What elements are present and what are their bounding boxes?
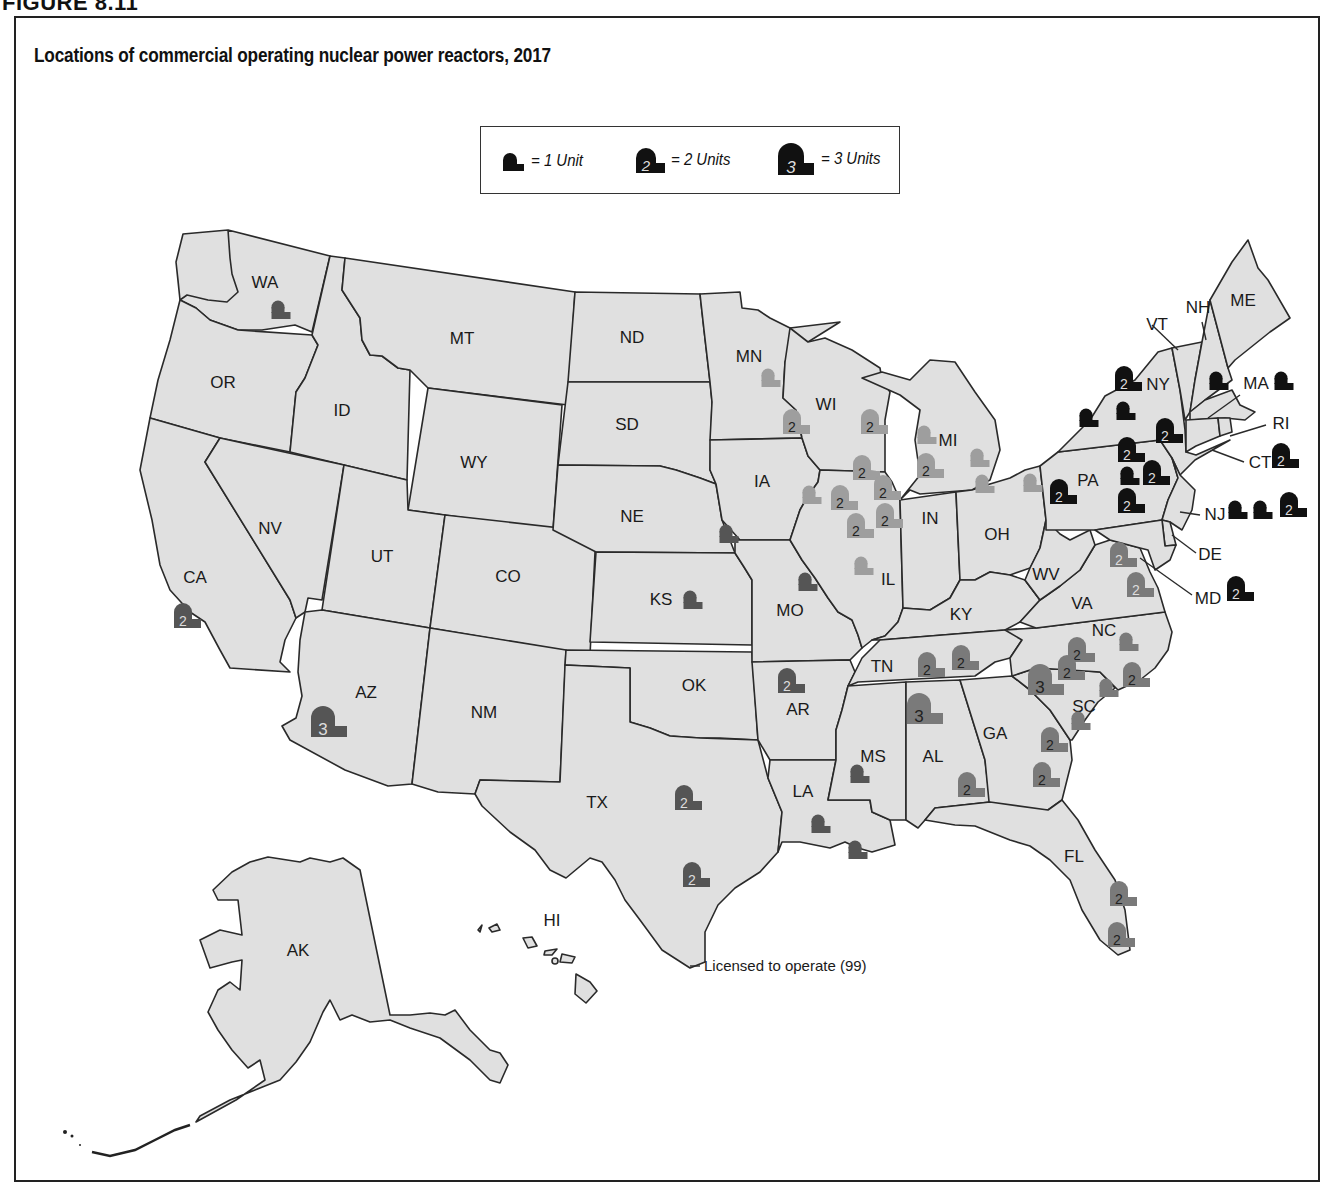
licensed-note: Licensed to operate (99) xyxy=(704,957,867,974)
svg-text:2: 2 xyxy=(852,523,860,539)
svg-text:2: 2 xyxy=(1113,932,1121,948)
svg-text:NH: NH xyxy=(1186,298,1211,317)
svg-text:2: 2 xyxy=(1161,428,1169,444)
svg-text:3: 3 xyxy=(914,707,923,726)
svg-text:2: 2 xyxy=(1132,582,1140,598)
svg-text:OR: OR xyxy=(210,373,236,392)
svg-text:2: 2 xyxy=(1148,470,1156,486)
svg-text:3: 3 xyxy=(1035,678,1044,697)
svg-text:ND: ND xyxy=(620,328,645,347)
svg-text:2: 2 xyxy=(1232,586,1240,602)
svg-text:2: 2 xyxy=(1115,891,1123,907)
svg-text:TX: TX xyxy=(586,793,608,812)
reactor-icon xyxy=(1254,501,1273,520)
svg-text:MS: MS xyxy=(860,747,886,766)
svg-text:AL: AL xyxy=(923,747,944,766)
reactor-icon: 2 xyxy=(1227,576,1254,602)
svg-text:2: 2 xyxy=(879,485,887,501)
svg-text:TN: TN xyxy=(871,657,894,676)
svg-text:NM: NM xyxy=(471,703,497,722)
svg-text:CO: CO xyxy=(495,567,521,586)
svg-text:2: 2 xyxy=(866,419,874,435)
reactor-icon: 2 xyxy=(1110,881,1137,907)
svg-text:2: 2 xyxy=(179,613,187,629)
svg-text:MT: MT xyxy=(450,329,475,348)
svg-text:NJ: NJ xyxy=(1205,505,1226,524)
svg-text:2: 2 xyxy=(957,655,965,671)
svg-text:ME: ME xyxy=(1230,291,1256,310)
svg-text:SD: SD xyxy=(615,415,639,434)
svg-text:NV: NV xyxy=(258,519,282,538)
svg-text:IL: IL xyxy=(881,570,895,589)
svg-text:NE: NE xyxy=(620,507,644,526)
svg-text:2: 2 xyxy=(688,872,696,888)
reactor-icon: 2 xyxy=(1108,922,1135,948)
lower48-states xyxy=(140,230,1290,968)
svg-text:NC: NC xyxy=(1092,621,1117,640)
svg-text:2: 2 xyxy=(1128,672,1136,688)
svg-text:NY: NY xyxy=(1146,375,1170,394)
svg-text:WY: WY xyxy=(460,453,487,472)
svg-text:UT: UT xyxy=(371,547,394,566)
svg-text:DE: DE xyxy=(1198,545,1222,564)
svg-text:PA: PA xyxy=(1077,471,1099,490)
svg-text:OH: OH xyxy=(984,525,1010,544)
svg-text:2: 2 xyxy=(923,662,931,678)
svg-text:OK: OK xyxy=(682,676,707,695)
svg-text:2: 2 xyxy=(1063,665,1071,681)
svg-text:IA: IA xyxy=(754,472,771,491)
svg-text:2: 2 xyxy=(1055,489,1063,505)
svg-text:2: 2 xyxy=(881,513,889,529)
state-ri xyxy=(1218,418,1232,436)
reactor-icon xyxy=(1275,372,1294,391)
reactor-icon: 2 xyxy=(1280,492,1307,518)
aleutian-islands xyxy=(63,1125,190,1156)
svg-text:LA: LA xyxy=(793,782,814,801)
state-hi xyxy=(478,924,597,1003)
svg-text:2: 2 xyxy=(858,465,866,481)
svg-text:IN: IN xyxy=(922,509,939,528)
svg-text:WV: WV xyxy=(1032,565,1060,584)
svg-text:KY: KY xyxy=(950,605,973,624)
svg-text:FL: FL xyxy=(1064,847,1084,866)
svg-text:VT: VT xyxy=(1146,315,1168,334)
svg-text:RI: RI xyxy=(1273,414,1290,433)
svg-text:KS: KS xyxy=(650,590,673,609)
svg-text:2: 2 xyxy=(1285,502,1293,518)
svg-text:MA: MA xyxy=(1243,374,1269,393)
svg-text:CT: CT xyxy=(1249,453,1272,472)
svg-text:2: 2 xyxy=(783,678,791,694)
svg-text:2: 2 xyxy=(836,495,844,511)
svg-text:MD: MD xyxy=(1195,589,1221,608)
state-fl xyxy=(925,800,1130,955)
svg-text:MO: MO xyxy=(776,601,803,620)
svg-text:2: 2 xyxy=(1123,447,1131,463)
reactor-icon xyxy=(1229,501,1248,520)
svg-text:2: 2 xyxy=(1115,552,1123,568)
svg-text:3: 3 xyxy=(318,720,327,739)
reactor-icon: 2 xyxy=(874,475,901,501)
svg-text:WI: WI xyxy=(816,395,837,414)
svg-text:CA: CA xyxy=(183,568,207,587)
reactor-icon: 2 xyxy=(1272,443,1299,469)
svg-text:2: 2 xyxy=(963,782,971,798)
svg-text:MI: MI xyxy=(939,431,958,450)
state-ak xyxy=(196,857,508,1122)
svg-text:WA: WA xyxy=(252,273,279,292)
svg-text:2: 2 xyxy=(680,795,688,811)
svg-text:MN: MN xyxy=(736,347,762,366)
svg-text:GA: GA xyxy=(983,724,1008,743)
svg-text:2: 2 xyxy=(788,419,796,435)
svg-text:2: 2 xyxy=(1038,772,1046,788)
svg-text:2: 2 xyxy=(1123,498,1131,514)
us-map: WA OR ID MT WY NV CA UT CO AZ NM ND SD N… xyxy=(0,0,1326,1184)
svg-text:HI: HI xyxy=(544,911,561,930)
svg-text:2: 2 xyxy=(1046,737,1054,753)
svg-text:2: 2 xyxy=(1120,376,1128,392)
svg-text:2: 2 xyxy=(1277,453,1285,469)
svg-text:AK: AK xyxy=(287,941,310,960)
svg-text:ID: ID xyxy=(334,401,351,420)
svg-text:AR: AR xyxy=(786,700,810,719)
svg-text:AZ: AZ xyxy=(355,683,377,702)
svg-text:2: 2 xyxy=(922,463,930,479)
